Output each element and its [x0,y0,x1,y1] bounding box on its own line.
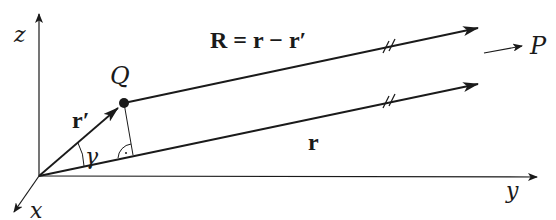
z-axis-label: z [13,22,26,47]
vector-diagram: z x y Q P r′ R = r − r′ r γ [0,0,556,220]
gamma-label: γ [85,144,99,169]
right-angle-dot [125,152,127,154]
y-axis-label: y [505,178,519,203]
perpendicular-line [124,103,133,155]
right-angle-mark [118,144,131,158]
r-label: r [308,129,319,155]
p-label: P [529,32,547,60]
x-axis-label: x [30,198,43,220]
y-axis [39,176,537,177]
q-label: Q [110,62,130,90]
r-vector [39,84,478,176]
gamma-angle-arc [78,143,84,166]
p-direction-arrow [484,46,522,53]
r-prime-label: r′ [72,107,89,133]
R-equation-label: R = r − r′ [210,27,306,53]
